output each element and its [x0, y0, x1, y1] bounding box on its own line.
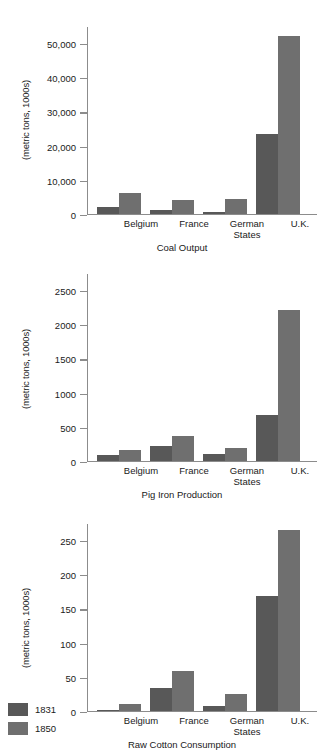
- bar-1850: [119, 450, 141, 461]
- y-tick-mark: [80, 462, 87, 463]
- bar-1831: [256, 134, 278, 214]
- y-tick-label: 0: [71, 210, 76, 221]
- legend-swatch-1831: [8, 703, 28, 716]
- legend-label: 1831: [35, 704, 56, 715]
- y-tick-label: 0: [71, 707, 76, 718]
- y-tick-mark: [80, 215, 87, 216]
- y-tick-mark: [80, 147, 87, 148]
- y-tick-mark: [80, 325, 87, 326]
- bar-1850: [278, 36, 300, 214]
- y-tick-mark: [80, 609, 87, 610]
- bar-1831: [150, 688, 172, 711]
- y-tick-mark: [80, 181, 87, 182]
- bar-1831: [256, 415, 278, 461]
- bar-1850: [119, 704, 141, 711]
- bar-group: [256, 530, 300, 711]
- bar-1850: [278, 310, 300, 461]
- chart-pig-iron-production: (metric tons, 1000s) 0500100015002000250…: [0, 249, 320, 498]
- y-tick-mark: [80, 712, 87, 713]
- y-tick-mark: [80, 541, 87, 542]
- y-tick-label: 1500: [55, 354, 76, 365]
- bar-1850: [225, 694, 247, 711]
- bar-1850: [225, 199, 247, 214]
- y-tick-label: 50,000: [47, 39, 76, 50]
- bar-1850: [172, 200, 194, 214]
- bar-group: [97, 704, 141, 711]
- y-tick-label: 40,000: [47, 73, 76, 84]
- y-tick-mark: [80, 78, 87, 79]
- y-tick-mark: [80, 575, 87, 576]
- y-tick-mark: [80, 44, 87, 45]
- bar-group: [150, 671, 194, 711]
- bar-series-group: [87, 274, 309, 461]
- bar-group: [203, 694, 247, 711]
- chart-coal-output: (metric tons, 1000s) 010,00020,00030,000…: [0, 0, 320, 249]
- bar-1831: [203, 454, 225, 461]
- bar-group: [203, 199, 247, 214]
- bar-group: [256, 310, 300, 461]
- bar-series-group: [87, 524, 309, 711]
- x-axis-label: U.K.: [256, 218, 320, 229]
- legend: 18311850: [8, 700, 56, 738]
- plot-area-3: 050100150200250: [87, 524, 309, 712]
- y-tick-mark: [80, 644, 87, 645]
- bar-group: [150, 200, 194, 214]
- bar-1850: [172, 671, 194, 711]
- x-axis-label: U.K.: [256, 715, 320, 726]
- bar-1831: [203, 706, 225, 711]
- bar-1831: [256, 596, 278, 711]
- y-tick-label: 2500: [55, 286, 76, 297]
- y-tick-mark: [80, 394, 87, 395]
- bar-1831: [203, 212, 225, 214]
- y-tick-label: 100: [60, 638, 76, 649]
- legend-item: 1831: [8, 700, 56, 719]
- y-tick-label: 30,000: [47, 107, 76, 118]
- y-tick-mark: [80, 291, 87, 292]
- bar-1850: [119, 193, 141, 214]
- y-tick-mark: [80, 678, 87, 679]
- y-tick-label: 20,000: [47, 141, 76, 152]
- bar-group: [150, 436, 194, 461]
- y-tick-label: 1000: [55, 388, 76, 399]
- legend-item: 1850: [8, 719, 56, 738]
- bar-1850: [278, 530, 300, 711]
- bar-1850: [172, 436, 194, 461]
- chart-title: Raw Cotton Consumption: [22, 739, 320, 750]
- bar-group: [97, 193, 141, 214]
- bar-group: [203, 448, 247, 461]
- y-tick-label: 0: [71, 457, 76, 468]
- y-tick-label: 250: [60, 536, 76, 547]
- y-tick-label: 500: [60, 422, 76, 433]
- y-axis-title: (metric tons, 1000s): [20, 50, 31, 190]
- y-tick-label: 200: [60, 570, 76, 581]
- bar-1831: [150, 210, 172, 214]
- y-tick-mark: [80, 112, 87, 113]
- legend-swatch-1850: [8, 722, 28, 735]
- bar-series-group: [87, 27, 309, 214]
- y-axis-title: (metric tons, 1000s): [20, 299, 31, 439]
- bar-1831: [97, 710, 119, 711]
- y-axis-title: (metric tons, 1000s): [20, 558, 31, 698]
- x-axis-label: U.K.: [256, 465, 320, 476]
- y-tick-label: 2000: [55, 320, 76, 331]
- bar-1831: [150, 446, 172, 461]
- bar-1850: [225, 448, 247, 461]
- y-tick-mark: [80, 359, 87, 360]
- bar-1831: [97, 207, 119, 214]
- y-tick-label: 10,000: [47, 175, 76, 186]
- y-tick-label: 150: [60, 604, 76, 615]
- bar-group: [97, 450, 141, 461]
- y-tick-mark: [80, 428, 87, 429]
- plot-area-1: 010,00020,00030,00040,00050,000: [87, 27, 309, 215]
- bar-group: [256, 36, 300, 214]
- y-tick-label: 50: [65, 672, 76, 683]
- legend-label: 1850: [35, 723, 56, 734]
- plot-area-2: 05001000150020002500: [87, 274, 309, 462]
- bar-1831: [97, 455, 119, 461]
